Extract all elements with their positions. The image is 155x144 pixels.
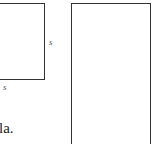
square-side-label-right: s [49, 38, 53, 47]
caption-text: la. [0, 121, 14, 136]
square-side-label-bottom: s [3, 83, 7, 92]
square-shape [0, 3, 45, 80]
rectangle-shape [71, 3, 151, 144]
